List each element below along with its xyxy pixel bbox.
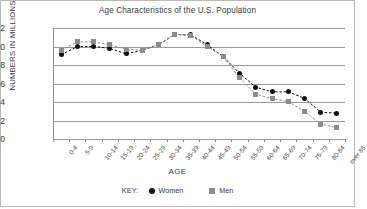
data-point-men	[59, 48, 64, 53]
x-axis-tick	[231, 139, 232, 142]
x-axis-tick	[167, 139, 168, 142]
x-axis-tick	[280, 139, 281, 142]
data-point-men	[172, 32, 177, 37]
x-axis-tick-label: 45-49	[216, 144, 232, 161]
series-line-women	[61, 34, 337, 113]
y-axis-tick-label: 8	[0, 60, 5, 70]
data-point-women	[59, 52, 64, 57]
x-axis-tick-label: 70-74	[297, 144, 313, 161]
data-point-men	[270, 96, 275, 101]
x-axis-tick	[313, 139, 314, 142]
x-axis-tick-label: 40-44	[200, 144, 216, 161]
x-axis-tick	[85, 139, 86, 142]
data-point-men	[75, 39, 80, 44]
legend-label-women: Women	[159, 186, 184, 195]
x-axis-tick-label: 25-29	[151, 144, 167, 161]
y-axis-title: NUMBERS IN MILLIONS	[8, 0, 17, 101]
x-axis-tick-label: 15-19	[119, 144, 135, 161]
x-axis-tick-label: 35-39	[184, 144, 200, 161]
data-point-women	[75, 44, 80, 49]
series-lines	[53, 28, 345, 139]
data-point-men	[91, 39, 96, 44]
y-axis-tick-label: 6	[0, 79, 5, 89]
data-point-men	[302, 109, 307, 114]
x-axis-tick	[102, 139, 103, 142]
data-point-women	[270, 89, 275, 94]
y-axis-tick-label: 12	[0, 23, 5, 33]
x-axis-tick-label: 75-79	[313, 144, 329, 161]
legend-key-label: KEY:	[122, 186, 139, 195]
x-axis-tick	[134, 139, 135, 142]
data-point-men	[237, 75, 242, 80]
y-axis-tick-label: 4	[0, 97, 5, 107]
data-point-women	[302, 96, 307, 101]
data-point-men	[221, 54, 226, 59]
plot-area	[53, 28, 345, 139]
x-axis-tick-label: 30-34	[167, 144, 183, 161]
x-axis-tick	[296, 139, 297, 142]
data-point-men	[140, 48, 145, 53]
legend-item-men: Men	[209, 186, 233, 195]
chart-figure: Age Characteristics of the U.S. Populati…	[0, 0, 355, 207]
x-axis-tick	[215, 139, 216, 142]
data-point-women	[253, 85, 258, 90]
x-axis-title: AGE	[1, 167, 354, 176]
x-axis-tick	[53, 139, 54, 142]
data-point-women	[124, 51, 129, 56]
data-point-men	[286, 99, 291, 104]
x-axis-tick	[118, 139, 119, 142]
x-axis-tick-label: 80-84	[330, 144, 346, 161]
x-axis-tick-label: 20-24	[135, 144, 151, 161]
x-axis-tick-label: 65-69	[281, 144, 297, 161]
data-point-men	[253, 92, 258, 97]
x-axis-tick-label: 5-9	[84, 144, 95, 156]
x-axis-tick-label: 0-4	[67, 144, 78, 156]
data-point-men	[318, 122, 323, 127]
circle-marker-icon	[149, 188, 155, 194]
x-axis-tick-label: 60-64	[265, 144, 281, 161]
data-point-men	[107, 42, 112, 47]
x-axis-tick-label: 55-59	[248, 144, 264, 161]
y-axis-tick-label: 2	[0, 116, 5, 126]
series-line-men	[61, 34, 337, 127]
data-point-men	[124, 47, 129, 52]
x-axis-tick-label: 10-14	[102, 144, 118, 161]
chart-title: Age Characteristics of the U.S. Populati…	[1, 6, 354, 15]
x-axis-tick	[329, 139, 330, 142]
x-axis-tick	[264, 139, 265, 142]
legend-label-men: Men	[219, 186, 233, 195]
x-axis-tick	[69, 139, 70, 142]
square-marker-icon	[209, 188, 215, 194]
data-point-men	[156, 42, 161, 47]
x-axis-tick	[345, 139, 346, 142]
x-axis-tick	[199, 139, 200, 142]
data-point-men	[188, 33, 193, 38]
x-axis-tick-label: over 85	[347, 144, 366, 165]
x-axis-tick-label: 50-54	[232, 144, 248, 161]
data-point-men	[205, 44, 210, 49]
data-point-women	[318, 110, 323, 115]
chart-legend: KEY: Women Men	[1, 186, 354, 195]
x-axis-tick	[248, 139, 249, 142]
data-point-men	[334, 125, 339, 130]
legend-item-women: Women	[149, 186, 184, 195]
x-axis-ticks	[53, 139, 345, 142]
x-axis-tick	[183, 139, 184, 142]
y-axis-tick-label: 0	[0, 134, 5, 144]
y-axis-tick-label: 10	[0, 42, 5, 52]
x-axis-tick	[150, 139, 151, 142]
